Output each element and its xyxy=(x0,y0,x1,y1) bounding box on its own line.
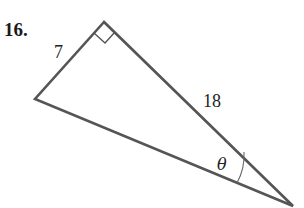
problem-number: 16. xyxy=(4,19,28,40)
side-label-18: 18 xyxy=(203,91,221,111)
triangle-diagram: 16. 7 18 θ xyxy=(0,0,304,208)
triangle xyxy=(35,22,293,206)
side-label-7: 7 xyxy=(54,42,63,62)
angle-label-theta: θ xyxy=(217,155,227,174)
right-angle-marker xyxy=(94,32,115,43)
